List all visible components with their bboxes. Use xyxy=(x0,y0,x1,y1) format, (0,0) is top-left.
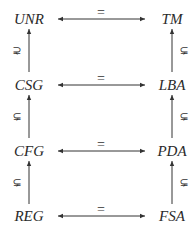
node-csg: CSG xyxy=(15,77,43,94)
equal-label-4: = xyxy=(97,202,105,218)
proper-subset-icon-right-2: ⊊ xyxy=(179,110,188,123)
proper-subset-icon-left-1: ⊊ xyxy=(12,44,21,57)
diagram-edges xyxy=(0,0,196,232)
node-reg: REG xyxy=(14,208,43,225)
equal-label-3: = xyxy=(97,137,105,153)
proper-subset-icon-right-3: ⊊ xyxy=(179,176,188,189)
node-fsa: FSA xyxy=(159,208,185,225)
proper-subset-icon-right-1: ⊊ xyxy=(179,44,188,57)
proper-subset-icon-left-2: ⊊ xyxy=(12,110,21,123)
proper-subset-icon-left-3: ⊊ xyxy=(12,176,21,189)
node-pda: PDA xyxy=(157,143,186,160)
equal-label-2: = xyxy=(97,71,105,87)
node-cfg: CFG xyxy=(14,143,44,160)
equal-label-1: = xyxy=(97,5,105,21)
node-lba: LBA xyxy=(159,77,186,94)
node-unr: UNR xyxy=(14,11,44,28)
node-tm: TM xyxy=(162,11,183,28)
